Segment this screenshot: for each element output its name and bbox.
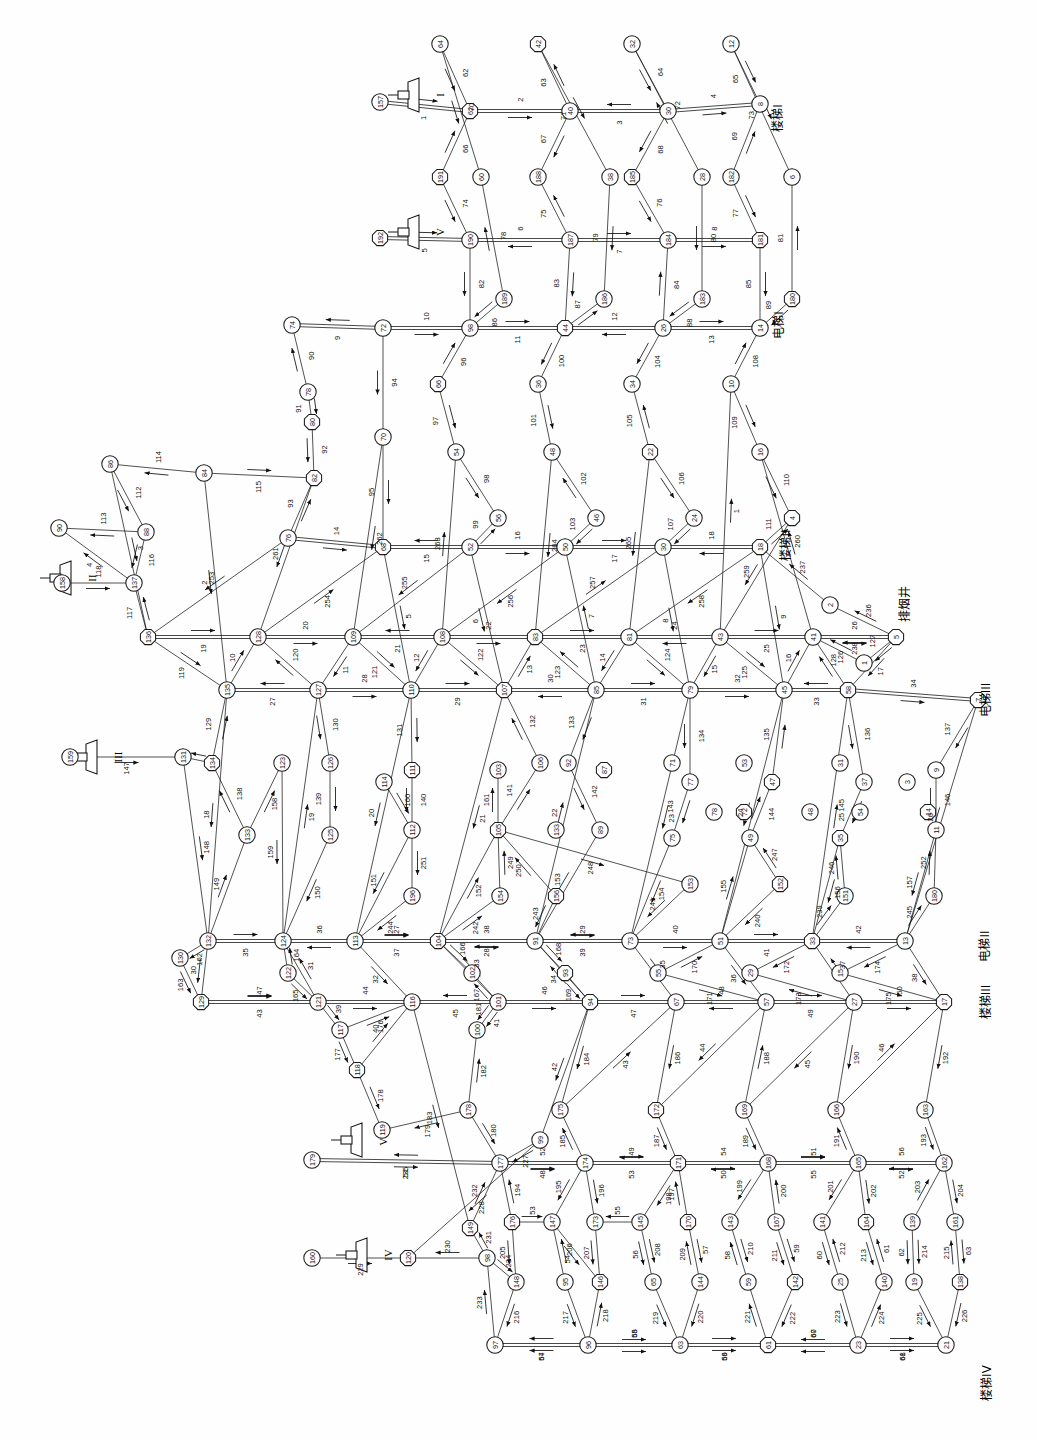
- network-node[interactable]: 110: [403, 682, 419, 698]
- network-node[interactable]: 24: [686, 510, 702, 526]
- network-node[interactable]: 148: [508, 1274, 524, 1290]
- network-node[interactable]: 103: [490, 762, 506, 778]
- network-node[interactable]: 42: [530, 36, 545, 51]
- network-node[interactable]: 48: [802, 804, 818, 820]
- network-node[interactable]: 183: [694, 291, 710, 307]
- network-node[interactable]: 170: [680, 1214, 695, 1229]
- network-node[interactable]: 180: [926, 888, 942, 904]
- network-node[interactable]: 98: [479, 1250, 495, 1266]
- network-node[interactable]: 180: [784, 291, 799, 306]
- network-node[interactable]: 117: [332, 1022, 348, 1038]
- network-node[interactable]: 6: [784, 169, 800, 185]
- network-node[interactable]: 131: [175, 749, 191, 765]
- network-node[interactable]: 99: [532, 1132, 548, 1148]
- network-node[interactable]: 60: [473, 169, 489, 185]
- network-node[interactable]: 176: [504, 1214, 519, 1229]
- network-node[interactable]: 118: [349, 1062, 364, 1077]
- network-node[interactable]: 114: [376, 774, 392, 790]
- network-node[interactable]: 100: [469, 1022, 485, 1038]
- network-node[interactable]: 16: [752, 444, 768, 460]
- fan-symbol-i[interactable]: I: [388, 78, 446, 112]
- network-node[interactable]: 79: [682, 682, 698, 698]
- network-node[interactable]: 129: [193, 994, 208, 1009]
- network-node[interactable]: 81: [621, 629, 637, 645]
- network-node[interactable]: 43: [712, 629, 728, 645]
- network-node[interactable]: 185: [624, 169, 639, 184]
- network-node[interactable]: 156: [548, 888, 563, 903]
- network-node[interactable]: 179: [304, 1152, 320, 1168]
- network-node[interactable]: 144: [692, 1274, 708, 1290]
- network-node[interactable]: 165: [850, 1155, 866, 1171]
- network-node[interactable]: 137: [126, 575, 142, 591]
- network-node[interactable]: 67: [668, 994, 684, 1010]
- network-node[interactable]: 123: [274, 755, 290, 771]
- network-node[interactable]: 71: [664, 755, 680, 771]
- network-node[interactable]: 139: [904, 1214, 920, 1230]
- network-node[interactable]: 28: [694, 169, 710, 185]
- network-node[interactable]: 116: [404, 994, 420, 1010]
- fan-symbol-v[interactable]: V: [388, 215, 446, 249]
- network-node[interactable]: 80: [304, 414, 319, 429]
- network-node[interactable]: 36: [530, 376, 546, 392]
- network-node[interactable]: 149: [462, 1220, 477, 1235]
- network-node[interactable]: 30: [655, 539, 671, 555]
- network-node[interactable]: 46: [588, 510, 604, 526]
- network-node[interactable]: 147: [544, 1214, 560, 1230]
- network-node[interactable]: 94: [582, 994, 597, 1009]
- network-node[interactable]: 23: [850, 1337, 866, 1353]
- network-node[interactable]: 32: [624, 36, 640, 52]
- network-node[interactable]: 192: [372, 230, 387, 245]
- network-node[interactable]: 8: [752, 96, 768, 112]
- network-node[interactable]: 135: [219, 682, 235, 698]
- network-node[interactable]: 154: [492, 888, 508, 904]
- network-node[interactable]: 171: [670, 1155, 685, 1170]
- network-node[interactable]: 128: [250, 629, 266, 645]
- network-node[interactable]: 11: [928, 822, 944, 838]
- network-node[interactable]: 58: [840, 682, 855, 697]
- network-node[interactable]: 190: [462, 232, 478, 248]
- network-node[interactable]: 157: [372, 94, 388, 110]
- network-node[interactable]: 72: [375, 320, 391, 336]
- network-node[interactable]: 164: [858, 1214, 873, 1229]
- network-node[interactable]: 31: [832, 755, 848, 771]
- network-node[interactable]: 133: [239, 827, 255, 843]
- network-node[interactable]: 119: [374, 1122, 390, 1138]
- network-node[interactable]: 64: [432, 36, 448, 52]
- network-node[interactable]: 33: [804, 933, 819, 948]
- network-node[interactable]: 51: [712, 933, 728, 949]
- network-node[interactable]: 189: [496, 291, 512, 307]
- network-node[interactable]: 9: [928, 762, 944, 778]
- network-node[interactable]: 112: [404, 822, 420, 838]
- network-node[interactable]: 178: [460, 1102, 476, 1118]
- network-node[interactable]: 54: [448, 444, 464, 460]
- fan-symbol-iv[interactable]: IV: [336, 1238, 394, 1272]
- network-node[interactable]: 82: [306, 470, 321, 485]
- network-node[interactable]: 54: [852, 804, 868, 820]
- network-node[interactable]: 177: [492, 1155, 508, 1171]
- network-node[interactable]: 38: [602, 169, 618, 185]
- network-node[interactable]: 163: [917, 1102, 933, 1118]
- network-node[interactable]: 107: [496, 682, 511, 697]
- network-node[interactable]: 59: [740, 1274, 756, 1290]
- network-node[interactable]: 65: [645, 1274, 661, 1290]
- network-node[interactable]: 21: [938, 1337, 954, 1353]
- network-node[interactable]: 175: [552, 1102, 568, 1118]
- network-node[interactable]: 105: [490, 822, 505, 837]
- network-node[interactable]: 83: [527, 629, 542, 644]
- network-node[interactable]: 166: [828, 1102, 844, 1118]
- network-node[interactable]: 169: [736, 1102, 752, 1118]
- network-node[interactable]: 1: [856, 655, 872, 671]
- network-node[interactable]: 101: [490, 994, 506, 1010]
- network-node[interactable]: 187: [562, 232, 578, 248]
- network-node[interactable]: 48: [544, 444, 560, 460]
- network-node[interactable]: 52: [462, 539, 478, 555]
- network-node[interactable]: 10: [723, 376, 739, 392]
- network-node[interactable]: 146: [592, 1274, 607, 1289]
- network-node[interactable]: 106: [532, 755, 548, 771]
- network-node[interactable]: 120: [400, 1250, 415, 1265]
- network-node[interactable]: 145: [632, 1214, 648, 1230]
- network-node[interactable]: 86: [102, 456, 118, 472]
- network-node[interactable]: 126: [322, 755, 338, 771]
- network-node[interactable]: 85: [588, 682, 604, 698]
- network-node[interactable]: 4: [784, 510, 799, 525]
